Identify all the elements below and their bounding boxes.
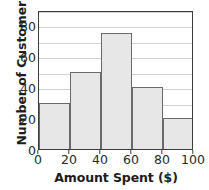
x-axis-tick-label: 80 <box>154 152 170 167</box>
x-axis-tick-label: 60 <box>123 152 139 167</box>
plot-area <box>38 11 193 150</box>
x-axis-title: Amount Spent ($) <box>38 170 194 185</box>
x-axis-tick-label: 0 <box>34 152 42 167</box>
bar <box>101 33 132 149</box>
histogram-chart: Number of Customers 020406080 0204060801… <box>0 0 209 190</box>
x-axis-tick-label: 100 <box>181 152 205 167</box>
x-axis-tick-label: 40 <box>92 152 108 167</box>
y-axis-tick-label: 60 <box>2 50 36 65</box>
y-axis-tick-labels: 020406080 <box>0 0 36 190</box>
y-axis-tick-label: 80 <box>2 19 36 34</box>
y-axis-tick-label: 20 <box>2 112 36 127</box>
bar <box>39 103 70 149</box>
bar <box>132 87 163 149</box>
bar <box>70 72 101 149</box>
bar <box>163 118 193 149</box>
x-axis-tick-label: 20 <box>61 152 77 167</box>
y-axis-tick-label: 0 <box>2 143 36 158</box>
bars-container <box>39 12 192 149</box>
y-axis-tick-label: 40 <box>2 81 36 96</box>
